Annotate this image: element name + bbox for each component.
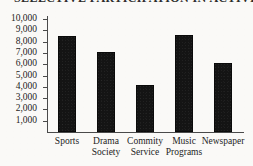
y-tick-label: 6,000 [0,59,37,69]
y-tick-label: 7,000 [0,48,37,58]
y-tick [43,53,47,54]
y-tick-label: 1,000 [0,116,37,126]
bar [214,63,232,132]
chart-title-text: SELECTIVE PARTICIPATION IN ACTIVITIES [14,0,253,5]
plot-area: 10,0009,0008,0007,0006,0005,0004,0003,00… [47,16,247,133]
y-tick [43,19,47,20]
x-axis-line [47,132,244,133]
x-tick-label: Newspaper [199,136,247,147]
y-tick [43,121,47,122]
y-tick-label: 10,000 [0,14,37,24]
y-tick-label: 5,000 [0,71,37,81]
y-tick-label: 4,000 [0,82,37,92]
chart-title-cropped: SELECTIVE PARTICIPATION IN ACTIVITIES [0,0,253,5]
y-tick-label: 3,000 [0,93,37,103]
y-tick [43,87,47,88]
y-tick [43,30,47,31]
bar [136,85,154,132]
y-tick-label: 2,000 [0,104,37,114]
chart-page: SELECTIVE PARTICIPATION IN ACTIVITIES 10… [0,0,253,166]
y-tick-label: 8,000 [0,37,37,47]
y-tick [43,98,47,99]
y-tick [43,42,47,43]
bar [175,35,193,132]
y-tick-label: 9,000 [0,25,37,35]
y-tick [43,76,47,77]
x-tick-label-line: Newspaper [199,136,247,147]
y-tick [43,64,47,65]
bar [58,36,76,132]
bar [97,52,115,132]
y-axis-line [47,16,48,133]
x-tick-label-line: Programs [160,147,208,158]
y-tick [43,109,47,110]
